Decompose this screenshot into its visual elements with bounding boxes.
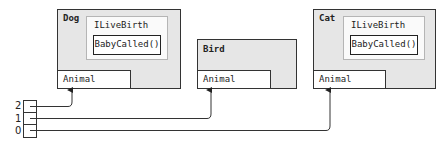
arrow-index-0-to-cat	[30, 90, 330, 131]
reference-arrows	[0, 0, 446, 145]
arrow-index-1-to-bird	[30, 90, 211, 119]
arrow-index-2-to-dog	[30, 90, 72, 107]
